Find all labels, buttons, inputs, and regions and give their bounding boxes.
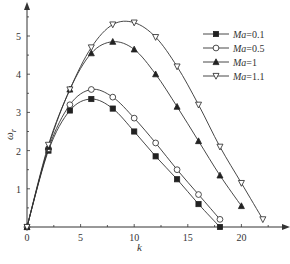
svg-text:ωr: ωr bbox=[3, 128, 18, 140]
square-marker-icon bbox=[89, 96, 94, 101]
triangle-up-marker-icon bbox=[174, 103, 180, 109]
series-line bbox=[27, 89, 220, 227]
legend-label: Ma=0.1 bbox=[232, 29, 264, 40]
y-tick-label: 1 bbox=[16, 184, 21, 195]
circle-marker-icon bbox=[67, 102, 73, 108]
circle-marker-icon bbox=[110, 94, 116, 100]
y-tick-label: 3 bbox=[16, 107, 21, 118]
triangle-down-marker-icon bbox=[110, 22, 116, 28]
square-marker-icon bbox=[217, 224, 222, 229]
y-axis-arrow-icon bbox=[24, 2, 30, 10]
legend-label: Ma=1 bbox=[232, 57, 257, 68]
triangle-up-marker-icon bbox=[217, 172, 223, 178]
circle-marker-icon bbox=[196, 192, 202, 198]
legend: Ma=0.1Ma=0.5Ma=1Ma=1.1 bbox=[203, 29, 264, 82]
square-marker-icon bbox=[213, 31, 218, 36]
y-tick-label: 2 bbox=[16, 146, 21, 157]
x-tick-label: 5 bbox=[78, 232, 83, 243]
x-tick-label: 20 bbox=[236, 232, 246, 243]
x-tick-label: 0 bbox=[25, 232, 30, 243]
series-line bbox=[27, 99, 220, 227]
square-marker-icon bbox=[67, 108, 72, 113]
circle-marker-icon bbox=[88, 87, 94, 93]
y-axis-label: ωr bbox=[3, 128, 18, 140]
legend-label: Ma=1.1 bbox=[232, 71, 264, 82]
circle-marker-icon bbox=[153, 140, 159, 146]
square-marker-icon bbox=[196, 201, 201, 206]
circle-marker-icon bbox=[174, 167, 180, 173]
triangle-down-marker-icon bbox=[88, 45, 94, 51]
square-marker-icon bbox=[132, 129, 137, 134]
series-line bbox=[27, 21, 263, 227]
chart: 0510152012345 k ωr Ma=0.1Ma=0.5Ma=1Ma=1.… bbox=[0, 0, 290, 264]
series-ma-0-1 bbox=[24, 96, 222, 229]
triangle-down-marker-icon bbox=[196, 102, 202, 108]
x-axis-arrow-icon bbox=[282, 224, 290, 230]
legend-label: Ma=0.5 bbox=[232, 43, 264, 54]
square-marker-icon bbox=[174, 177, 179, 182]
plot-area bbox=[24, 20, 266, 230]
x-axis-label: k bbox=[137, 241, 143, 253]
series-ma-0-5 bbox=[24, 87, 223, 230]
y-tick-label: 4 bbox=[16, 69, 21, 80]
y-tick-label: 5 bbox=[16, 31, 21, 42]
legend-item: Ma=0.5 bbox=[203, 43, 264, 54]
triangle-down-marker-icon bbox=[260, 217, 266, 223]
triangle-up-marker-icon bbox=[196, 138, 202, 144]
circle-marker-icon bbox=[213, 45, 219, 51]
square-marker-icon bbox=[110, 106, 115, 111]
circle-marker-icon bbox=[131, 115, 137, 121]
triangle-down-marker-icon bbox=[238, 180, 244, 186]
triangle-down-marker-icon bbox=[174, 64, 180, 70]
legend-item: Ma=1.1 bbox=[203, 71, 264, 82]
triangle-up-marker-icon bbox=[131, 46, 137, 52]
circle-marker-icon bbox=[217, 216, 223, 222]
square-marker-icon bbox=[153, 154, 158, 159]
x-tick-label: 15 bbox=[183, 232, 193, 243]
legend-item: Ma=0.1 bbox=[203, 29, 264, 40]
triangle-down-marker-icon bbox=[217, 144, 223, 150]
legend-item: Ma=1 bbox=[203, 57, 257, 68]
